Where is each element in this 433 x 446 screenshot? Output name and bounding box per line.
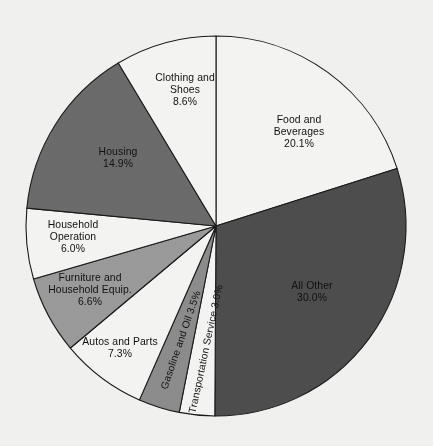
slice-label-line: Housing (99, 146, 138, 157)
slice-label-housing: Housing14.9% (99, 146, 138, 169)
slice-label-line: 6.0% (61, 243, 85, 254)
slice-label-line: Furniture and (58, 271, 121, 282)
pie-chart-figure: Food and Beverages 20.1%All Other 30.0%T… (0, 0, 433, 446)
slice-label-line: Beverages (274, 126, 325, 137)
slice-label-line: All Other (291, 280, 333, 291)
slice-label-line: Clothing and (155, 71, 215, 82)
slice-label-line: 30.0% (297, 292, 327, 303)
slice-label-line: 8.6% (173, 96, 197, 107)
slice-label-line: 6.6% (78, 296, 102, 307)
slice-label-line: Autos and Parts (82, 336, 157, 347)
slice-label-line: Food and (277, 113, 322, 124)
slice-label-line: 7.3% (108, 348, 132, 359)
slice-label-line: Household (48, 218, 99, 229)
slice-label-line: 20.1% (284, 138, 314, 149)
slice-label-line: 14.9% (103, 158, 133, 169)
pie-chart-svg: Food and Beverages 20.1%All Other 30.0%T… (0, 0, 433, 446)
slice-label-line: Operation (50, 231, 97, 242)
slice-label-all-other: All Other30.0% (291, 280, 333, 303)
slice-label-line: Household Equip. (48, 284, 132, 295)
slice-label-line: Shoes (170, 84, 200, 95)
